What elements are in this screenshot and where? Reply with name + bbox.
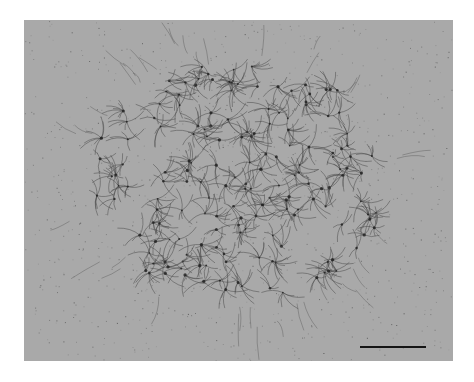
- micrograph-frame: [24, 20, 453, 361]
- fiber-network: [24, 20, 453, 361]
- scale-bar: [360, 346, 426, 348]
